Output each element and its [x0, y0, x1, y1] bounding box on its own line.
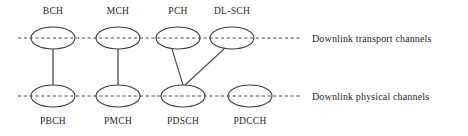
label-pbch: PBCH [40, 116, 66, 126]
label-dl-sch: DL-SCH [214, 6, 250, 16]
dashed-guide-lines [18, 38, 300, 96]
connection-dlsch-pdsch [185, 49, 224, 85]
channel-mapping-diagram: BCH MCH PCH DL-SCH PBCH PMCH PDSCH PDCCH… [0, 0, 468, 136]
label-pdcch: PDCCH [233, 116, 266, 126]
transport-channel-labels: BCH MCH PCH DL-SCH [43, 6, 250, 16]
label-bch: BCH [43, 6, 63, 16]
legend: Downlink transport channels Downlink phy… [312, 33, 432, 102]
physical-channel-labels: PBCH PMCH PDSCH PDCCH [40, 116, 267, 126]
legend-physical-channels: Downlink physical channels [312, 91, 429, 102]
label-pch: PCH [168, 6, 187, 16]
label-pdsch: PDSCH [167, 116, 199, 126]
label-pmch: PMCH [104, 116, 132, 126]
label-mch: MCH [107, 6, 130, 16]
legend-transport-channels: Downlink transport channels [312, 33, 432, 44]
connection-pch-pdsch [172, 49, 183, 85]
diagram-canvas: BCH MCH PCH DL-SCH PBCH PMCH PDSCH PDCCH… [0, 0, 468, 136]
connection-lines [53, 49, 224, 85]
